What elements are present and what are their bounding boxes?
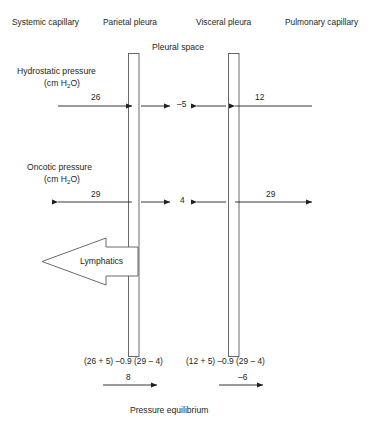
oncotic-pressure-title: Oncotic pressure [27,162,92,173]
oncotic-left-value: 29 [91,189,100,200]
parietal-equation: (26 + 5) –0.9 (29 – 4) [84,356,163,367]
header-pulmonary-capillary: Pulmonary capillary [285,17,358,28]
oncotic-units-sub: 2 [67,178,70,185]
visceral-pleura-membrane [229,54,240,357]
pleural-space-label: Pleural space [152,42,204,53]
pleural-pressure-svg [0,0,375,433]
hydrostatic-pressure-units: (cm H2O) [44,78,80,89]
oncotic-right-value: 29 [266,189,275,200]
visceral-equation: (12 + 5) –0.9 (29 – 4) [186,356,265,367]
diagram-canvas: Systemic capillary Parietal pleura Visce… [0,0,375,433]
hydrostatic-center-value: –5 [177,99,186,110]
pressure-equilibrium-label: Pressure equilibrium [130,405,208,416]
oncotic-units-tail: O) [70,174,80,184]
hydrostatic-units-sub: 2 [67,82,70,89]
oncotic-center-value: 4 [180,195,185,206]
hydrostatic-units-head: (cm H [44,78,67,88]
header-visceral-pleura: Visceral pleura [196,17,251,28]
lymphatics-label: Lymphatics [80,256,123,267]
hydrostatic-pressure-title: Hydrostatic pressure [17,66,96,77]
oncotic-pressure-units: (cm H2O) [44,174,80,185]
hydrostatic-left-value: 26 [91,92,100,103]
header-parietal-pleura: Parietal pleura [103,17,157,28]
oncotic-units-head: (cm H [44,174,67,184]
parietal-net-value: 8 [126,372,131,383]
hydrostatic-units-tail: O) [70,78,80,88]
hydrostatic-right-value: 12 [255,92,264,103]
header-systemic-capillary: Systemic capillary [12,17,79,28]
parietal-pleura-membrane [129,54,140,357]
visceral-net-value: –6 [238,372,247,383]
